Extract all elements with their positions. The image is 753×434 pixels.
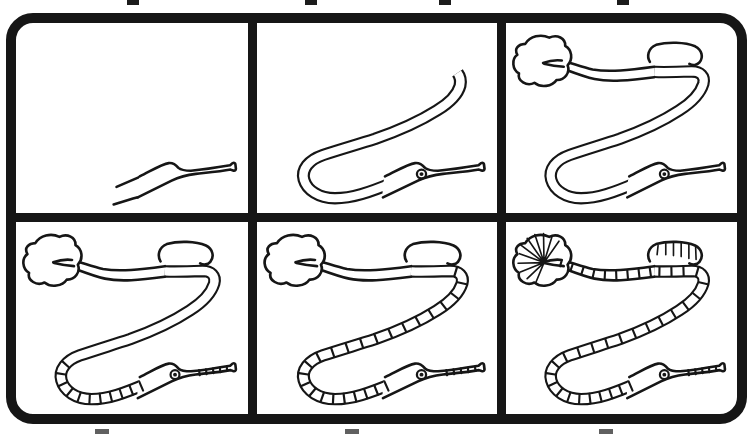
segment-ring [100, 394, 101, 403]
initial-sketch-lines [114, 177, 140, 205]
body-band [551, 271, 704, 399]
body-band [61, 271, 215, 399]
segment-ring [627, 270, 628, 278]
head-and-snout [627, 363, 725, 398]
panel-step-1 [16, 23, 248, 213]
segment-ring [220, 368, 221, 372]
worksheet [0, 0, 753, 434]
pipefish-drawing-step-3 [506, 23, 737, 213]
tail-fin [23, 235, 81, 286]
scan-artifact [127, 0, 139, 5]
panel-step-6 [506, 222, 737, 414]
dorsal-fin [405, 242, 461, 265]
segment-ring [199, 370, 200, 375]
pipefish-drawing-step-2 [257, 23, 497, 213]
segment-ring [333, 394, 334, 403]
segment-ring [593, 270, 595, 277]
tail-fin [513, 36, 571, 86]
body-band-partial [303, 73, 460, 198]
segment-ring [581, 268, 583, 274]
scan-artifact [345, 429, 359, 434]
segment-ring [468, 368, 469, 372]
pipefish-drawing-step-4 [16, 222, 248, 414]
segment-ring [688, 370, 689, 375]
segment-ring [716, 367, 717, 371]
segment-ring [206, 369, 207, 374]
panel-step-2 [257, 23, 497, 213]
tail-fin [265, 235, 325, 286]
head-and-snout [383, 363, 485, 398]
panel-step-5 [257, 222, 497, 414]
panel-step-3 [506, 23, 737, 213]
pipefish-drawing-step-6 [506, 222, 737, 414]
tail-taper [67, 259, 165, 280]
body-band [303, 271, 462, 399]
head-and-snout [137, 363, 235, 398]
dorsal-fin [648, 242, 702, 265]
segment-ring [571, 264, 573, 270]
head-and-snout [137, 163, 235, 197]
segment-ring [589, 394, 590, 403]
segment-ring [702, 368, 703, 373]
segment-ring [227, 367, 228, 371]
panel-step-4 [16, 222, 248, 414]
dorsal-fin [159, 242, 213, 265]
segment-ring [454, 369, 455, 374]
eye [660, 370, 669, 379]
eye [660, 170, 669, 179]
pipefish-drawing-step-1 [16, 23, 248, 213]
scan-artifact [305, 0, 317, 5]
head-and-snout [627, 163, 725, 197]
dorsal-fin-ticks [657, 243, 696, 260]
segment-ring [709, 368, 710, 372]
segment-ring [344, 394, 345, 403]
body-band [551, 71, 704, 198]
pipefish-drawing-step-5 [257, 222, 497, 414]
segment-ring [57, 373, 66, 374]
segment-ring [695, 369, 696, 374]
segment-ring [475, 367, 476, 371]
scan-artifact [599, 429, 613, 434]
segment-ring [461, 368, 462, 373]
dorsal-fin [648, 43, 702, 65]
segment-ring [639, 269, 640, 278]
segment-ring [650, 268, 651, 277]
segment-ring [546, 373, 555, 374]
segment-ring [213, 368, 214, 373]
scan-artifact [617, 0, 629, 5]
tail-taper [557, 60, 654, 81]
head-and-snout [383, 163, 485, 197]
scan-artifact [439, 0, 451, 5]
segment-ring [446, 370, 447, 375]
eye [171, 370, 180, 379]
tail-taper [310, 259, 411, 280]
eye [417, 170, 426, 179]
scan-artifact [95, 429, 109, 434]
eye [417, 370, 426, 379]
segment-ring [299, 373, 308, 374]
